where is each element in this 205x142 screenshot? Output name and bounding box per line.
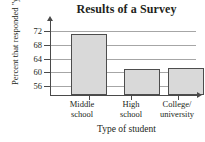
x-axis-line: [50, 95, 198, 96]
bar-college-university: [168, 68, 204, 95]
x-category-label-high-school: High school: [110, 99, 152, 119]
y-tick-mark-72: [44, 31, 50, 32]
gridline-72: [50, 31, 196, 32]
y-tick-label-64: 64: [20, 55, 42, 64]
bar-middle-school: [71, 34, 107, 95]
y-tick-label-60: 60: [20, 68, 42, 77]
y-axis-arrow-icon: [47, 16, 53, 21]
plot-area: [50, 24, 198, 95]
y-axis-title-line-2: responded "yes": [10, 0, 20, 42]
y-tick-mark-60: [44, 72, 50, 73]
x-category-label-college-university-line-2: university: [150, 109, 204, 119]
x-category-label-middle-school-line-2: school: [57, 109, 107, 119]
x-category-label-middle-school: Middle school: [57, 99, 107, 119]
x-category-label-college-university-line-1: College/: [150, 99, 204, 109]
x-axis-title: Type of student: [48, 124, 205, 135]
x-category-label-middle-school-line-1: Middle: [57, 99, 107, 109]
y-tick-label-68: 68: [20, 41, 42, 50]
y-tick-mark-56: [44, 86, 50, 87]
y-tick-label-56: 56: [20, 82, 42, 91]
bar-high-school: [124, 69, 160, 95]
x-axis-arrow-icon: [197, 92, 202, 98]
x-category-label-high-school-line-2: school: [110, 109, 152, 119]
x-category-label-college-university: College/ university: [150, 99, 204, 119]
x-category-label-high-school-line-1: High: [110, 99, 152, 109]
y-tick-label-72: 72: [20, 27, 42, 36]
y-tick-mark-68: [44, 45, 50, 46]
y-tick-mark-64: [44, 59, 50, 60]
y-axis-line: [50, 20, 51, 96]
chart-title: Results of a Survey: [48, 2, 205, 16]
y-axis-title-line-1: Percent that: [10, 45, 20, 85]
survey-bar-chart: Results of a Survey Percent that respond…: [0, 0, 205, 142]
